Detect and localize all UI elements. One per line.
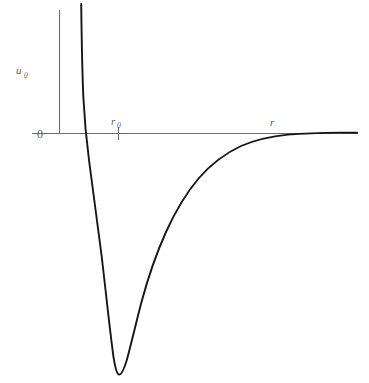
- y-axis-label-subscript: 0: [24, 71, 28, 80]
- r0-label-subscript: 0: [117, 121, 121, 130]
- potential-energy-chart: u 0 0 r 0 r: [0, 0, 369, 383]
- y-axis-label-base: u: [16, 64, 22, 76]
- y-axis-label: u 0: [16, 64, 28, 80]
- origin-label: 0: [37, 127, 43, 141]
- r0-annotation-label: r 0: [111, 115, 121, 130]
- r0-label-base: r: [111, 115, 116, 127]
- potential-curve: [81, 4, 357, 375]
- x-axis-label: r: [270, 116, 275, 128]
- chart-svg: u 0 0 r 0 r: [0, 0, 369, 383]
